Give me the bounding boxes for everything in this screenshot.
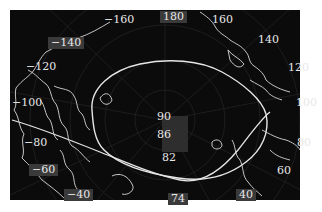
longitude-label-minus60: −60 <box>29 164 58 176</box>
longitude-label-minus120: −120 <box>26 61 56 73</box>
longitude-label-60: 60 <box>277 165 291 177</box>
latitude-label-74: 74 <box>168 193 188 205</box>
bottom-margin <box>0 200 322 212</box>
longitude-label-minus140: −140 <box>48 37 84 49</box>
longitude-label-80: 80 <box>297 137 311 149</box>
longitude-label-180: 180 <box>160 11 187 23</box>
longitude-label-minus40: −40 <box>64 189 93 201</box>
longitude-label-120: 120 <box>288 62 309 74</box>
longitude-label-100: 100 <box>296 97 317 109</box>
longitude-label-140: 140 <box>258 34 279 46</box>
latitude-label-86: 86 <box>157 129 171 141</box>
latitude-label-90: 90 <box>157 111 171 123</box>
latitude-label-82: 82 <box>162 152 176 164</box>
longitude-label-40: 40 <box>236 189 256 201</box>
longitude-label-minus160: −160 <box>104 14 134 26</box>
longitude-label-160: 160 <box>212 14 233 26</box>
longitude-label-minus100: −100 <box>12 97 42 109</box>
longitude-label-minus80: −80 <box>24 137 47 149</box>
